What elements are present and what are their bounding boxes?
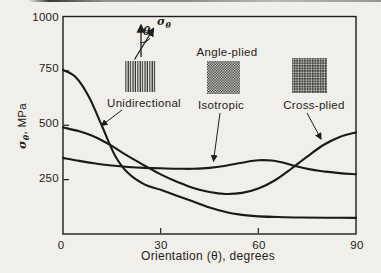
cross-plied-label: Cross-plied (269, 99, 359, 111)
unidirectional-leader-arrow-icon (102, 110, 123, 126)
y-tick-label-500: 500 (25, 117, 59, 129)
annotation-arrows (102, 110, 322, 161)
y-axis-title: σθ, MPa (16, 84, 30, 168)
cross-plied-leader-arrow-icon (307, 113, 321, 139)
isotropic-swatch-icon (207, 61, 240, 94)
unidirectional-swatch-icon (125, 61, 156, 92)
sigma-theta-symbol-label: σθ (157, 15, 171, 31)
x-tick-label-0: 0 (46, 239, 76, 251)
chart-canvas (0, 0, 381, 273)
isotropic-leader-arrow-icon (214, 113, 221, 161)
theta-symbol-label: θ (143, 26, 151, 38)
cross-plied-swatch-icon (292, 58, 327, 93)
x-axis-title: Orientation (θ), degrees (128, 250, 288, 262)
y-tick-label-750: 750 (25, 62, 59, 74)
axis-ticks (64, 71, 259, 233)
y-tick-label-1000: 1000 (25, 11, 59, 23)
x-tick-label-90: 90 (342, 239, 372, 251)
angle-plied-label: Angle-plied (187, 46, 267, 58)
y-tick-label-250: 250 (25, 172, 59, 184)
series-curve-isotropic (63, 158, 356, 174)
stress-vs-orientation-figure: 1000 750 500 250 0 30 60 90 Orientation … (0, 0, 381, 273)
isotropic-label: Isotropic (186, 99, 256, 111)
unidirectional-label: Unidirectional (94, 97, 194, 109)
